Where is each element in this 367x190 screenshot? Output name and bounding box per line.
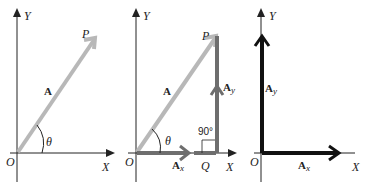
origin-label: O <box>125 155 134 169</box>
panel-vector: Y X O P A θ <box>6 8 115 182</box>
x-axis-label: X <box>225 160 234 174</box>
y-axis-label: Y <box>269 9 277 23</box>
component-ax-label: Ax <box>172 159 184 173</box>
y-axis-label: Y <box>143 9 151 23</box>
y-axis-arrow-icon <box>132 8 140 17</box>
angle-theta-label: θ <box>46 135 52 149</box>
panel-resolved: Y X O Ay Ax <box>250 8 360 182</box>
panel-components: Y X O P A θ Q 90° Ax Ay <box>125 8 237 182</box>
point-q-label: Q <box>201 159 210 173</box>
vector-a-label: A <box>163 85 171 97</box>
x-axis-arrow-icon <box>228 149 237 157</box>
vector-a <box>18 40 94 152</box>
y-axis-arrow-icon <box>13 8 21 17</box>
y-axis-label: Y <box>24 9 32 23</box>
vector-a-label: A <box>44 85 52 97</box>
vector-diagram: Y X O P A θ Y X O P A θ Q 90° Ax Ay <box>0 0 367 190</box>
right-angle-label: 90° <box>198 126 213 137</box>
point-p-label: P <box>201 29 210 43</box>
angle-theta-label: θ <box>165 134 171 148</box>
component-ax-label: Ax <box>298 159 310 173</box>
x-axis-arrow-icon <box>106 149 115 157</box>
angle-arc <box>37 125 43 153</box>
point-p-label: P <box>81 27 90 41</box>
angle-arc <box>152 129 160 153</box>
component-ay-label: Ay <box>265 82 277 96</box>
component-ay-label: Ay <box>223 81 235 95</box>
x-axis-label: X <box>101 160 110 174</box>
x-axis-label: X <box>351 160 360 174</box>
origin-label: O <box>6 155 15 169</box>
origin-label: O <box>250 155 259 169</box>
y-axis-arrow-icon <box>257 8 265 17</box>
